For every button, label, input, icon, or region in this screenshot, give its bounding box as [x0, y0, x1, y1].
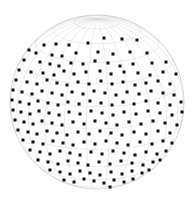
data-point — [142, 164, 145, 167]
data-point — [47, 161, 50, 164]
data-point — [75, 52, 78, 55]
data-point — [140, 123, 143, 126]
data-point — [28, 49, 31, 52]
data-point — [133, 131, 136, 134]
data-point — [63, 70, 66, 73]
data-point — [122, 81, 125, 84]
data-point — [162, 71, 165, 74]
data-point — [49, 153, 52, 156]
data-point — [51, 54, 54, 57]
data-point — [133, 103, 136, 106]
data-point — [56, 82, 59, 85]
data-point — [157, 130, 160, 133]
data-point — [14, 119, 17, 122]
data-point — [146, 52, 149, 55]
data-point — [122, 101, 125, 104]
data-point — [46, 79, 49, 82]
data-point — [136, 39, 139, 42]
globe-figure — [0, 0, 194, 204]
data-point — [176, 124, 179, 127]
data-point — [41, 120, 44, 123]
data-point — [83, 178, 86, 181]
data-point — [62, 142, 65, 145]
data-point — [46, 130, 49, 133]
data-point — [105, 140, 108, 143]
data-point — [169, 132, 172, 135]
data-point — [23, 121, 26, 124]
data-point — [151, 143, 154, 146]
data-point — [148, 169, 151, 172]
data-point — [69, 173, 72, 176]
data-point — [79, 113, 82, 116]
data-point — [61, 124, 64, 127]
data-point — [58, 65, 61, 68]
data-point — [99, 130, 102, 133]
data-point — [100, 80, 103, 83]
data-point — [61, 94, 64, 97]
data-point — [123, 111, 126, 114]
data-point — [57, 163, 60, 166]
data-point — [28, 103, 31, 106]
data-point — [51, 92, 54, 95]
data-point — [73, 181, 76, 184]
data-point — [39, 151, 42, 154]
data-point — [11, 99, 14, 102]
data-point — [157, 102, 160, 105]
data-point — [99, 174, 102, 177]
data-point — [181, 111, 184, 114]
data-point — [132, 63, 135, 66]
data-point — [109, 186, 112, 189]
data-point — [101, 153, 104, 156]
data-point — [36, 83, 39, 86]
data-point — [165, 150, 168, 153]
data-point — [145, 133, 148, 136]
globe-scatter-chart — [0, 0, 194, 204]
data-point — [77, 131, 80, 134]
data-point — [49, 63, 52, 66]
data-point — [159, 159, 162, 162]
data-point — [42, 143, 45, 146]
data-point — [147, 110, 150, 113]
data-point — [37, 100, 40, 103]
data-point — [110, 171, 113, 174]
data-point — [69, 152, 72, 155]
data-point — [27, 131, 30, 134]
data-point — [164, 122, 167, 125]
data-point — [119, 65, 122, 68]
data-point — [112, 53, 115, 56]
data-point — [132, 178, 135, 181]
data-point — [83, 123, 86, 126]
data-point — [105, 122, 108, 125]
data-point — [135, 113, 138, 116]
data-point — [79, 170, 82, 173]
data-point — [162, 140, 165, 143]
data-point — [37, 159, 40, 162]
data-point — [116, 124, 119, 127]
data-point — [152, 120, 155, 123]
data-point — [134, 84, 137, 87]
data-point — [59, 171, 62, 174]
data-point — [157, 80, 160, 83]
data-point — [88, 133, 91, 136]
data-point — [90, 151, 93, 154]
data-point — [101, 112, 104, 115]
data-point — [19, 101, 22, 104]
data-point — [111, 104, 114, 107]
data-point — [115, 94, 118, 97]
data-point — [104, 92, 107, 95]
data-point — [121, 134, 124, 137]
data-point — [173, 94, 176, 97]
data-point — [20, 111, 23, 114]
data-point — [90, 110, 93, 113]
data-point — [149, 74, 152, 77]
data-point — [180, 101, 183, 104]
data-point — [116, 142, 119, 145]
data-point — [151, 62, 154, 65]
data-point — [87, 164, 90, 167]
data-point — [141, 172, 144, 175]
data-point — [94, 120, 97, 123]
data-point — [134, 154, 137, 157]
data-point — [150, 90, 153, 93]
data-point — [63, 179, 66, 182]
data-point — [152, 161, 155, 164]
